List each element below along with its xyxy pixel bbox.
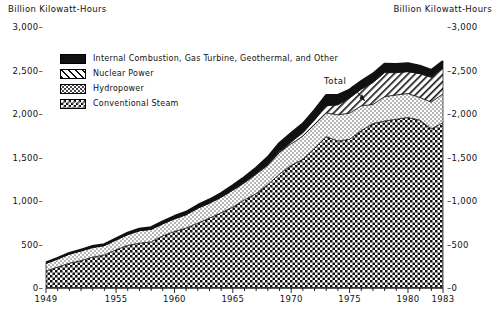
- legend-label: Internal Combustion, Gas Turbine, Geothe…: [93, 54, 338, 63]
- y-tick-label-left: 2,000–: [13, 109, 43, 119]
- x-tick-label: 1970: [280, 294, 303, 304]
- legend-item: Internal Combustion, Gas Turbine, Geothe…: [60, 52, 338, 65]
- x-tick-label: 1975: [338, 294, 361, 304]
- chart-figure: Billion Kilowatt-Hours Billion Kilowatt-…: [0, 0, 498, 321]
- y-tick-label-right: –1,500: [447, 153, 477, 163]
- x-tick-label: 1960: [163, 294, 186, 304]
- axis-lines: [46, 288, 443, 293]
- x-tick-label: 1983: [432, 294, 455, 304]
- legend-label: Hydropower: [93, 84, 144, 93]
- x-tick-label: 1965: [221, 294, 244, 304]
- plot-area: [0, 0, 498, 321]
- y-tick-label-left: 500–: [21, 240, 43, 250]
- x-tick-label: 1949: [35, 294, 58, 304]
- legend-swatch-internal-combustion: [60, 54, 86, 64]
- legend-item: Conventional Steam: [60, 97, 338, 110]
- legend-item: Nuclear Power: [60, 67, 338, 80]
- y-tick-label-left: 0–: [33, 283, 43, 293]
- x-tick-label: 1980: [397, 294, 420, 304]
- y-tick-label-right: –2,000: [447, 109, 477, 119]
- y-tick-label-left: 1,500–: [13, 153, 43, 163]
- y-tick-label-right: –1,000: [447, 196, 477, 206]
- legend-swatch-nuclear-power: [60, 69, 86, 79]
- y-tick-label-right: –0: [447, 283, 457, 293]
- legend-label: Conventional Steam: [93, 99, 179, 108]
- legend-swatch-conventional-steam: [60, 99, 86, 109]
- legend-item: Hydropower: [60, 82, 338, 95]
- total-label: Total: [324, 76, 346, 86]
- y-tick-label-left: 1,000–: [13, 196, 43, 206]
- legend: Internal Combustion, Gas Turbine, Geothe…: [60, 52, 338, 112]
- legend-label: Nuclear Power: [93, 69, 154, 78]
- y-tick-label-right: –3,000: [447, 22, 477, 32]
- y-tick-label-left: 3,000–: [13, 22, 43, 32]
- legend-swatch-hydropower: [60, 84, 86, 94]
- y-tick-label-left: 2,500–: [13, 66, 43, 76]
- y-tick-label-right: –500: [447, 240, 469, 250]
- y-tick-label-right: –2,500: [447, 66, 477, 76]
- x-tick-label: 1955: [105, 294, 128, 304]
